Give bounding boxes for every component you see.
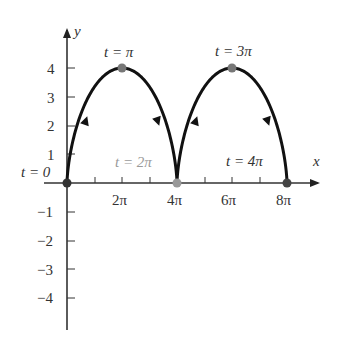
label-t4pi: t = 4π <box>226 153 263 169</box>
direction-arrows <box>80 115 273 127</box>
arrow-down-2 <box>262 116 273 127</box>
y-tick-neg1: −1 <box>37 204 53 220</box>
y-tick-2: 2 <box>47 118 55 134</box>
cycloid-plot: y x t = 0 t = π t = 2π t = 3π t = 4π 2π … <box>0 0 350 358</box>
y-tick-3: 3 <box>47 90 55 106</box>
y-tick-neg2: −2 <box>37 233 53 249</box>
y-tick-neg3: −3 <box>37 262 53 278</box>
arrow-up-1 <box>80 115 91 126</box>
arrow-down-1 <box>152 116 163 127</box>
point-tpi <box>118 64 127 73</box>
x-axis-label: x <box>312 153 320 169</box>
point-t0 <box>63 179 72 188</box>
label-tpi: t = π <box>104 44 134 60</box>
point-t3pi <box>228 64 237 73</box>
point-t4pi <box>283 179 292 188</box>
label-t2pi: t = 2π <box>115 154 152 170</box>
x-tick-8pi: 8π <box>276 192 292 208</box>
arrow-up-2 <box>190 115 201 126</box>
y-tick-neg4: −4 <box>37 290 53 306</box>
point-t2pi <box>173 179 182 188</box>
label-t3pi: t = 3π <box>215 43 252 59</box>
y-axis-label: y <box>72 23 81 39</box>
y-tick-1: 1 <box>47 147 55 163</box>
y-tick-4: 4 <box>47 61 55 77</box>
x-tick-6pi: 6π <box>221 192 237 208</box>
x-tick-4pi: 4π <box>167 192 183 208</box>
label-t0: t = 0 <box>21 164 51 180</box>
x-tick-2pi: 2π <box>112 192 128 208</box>
